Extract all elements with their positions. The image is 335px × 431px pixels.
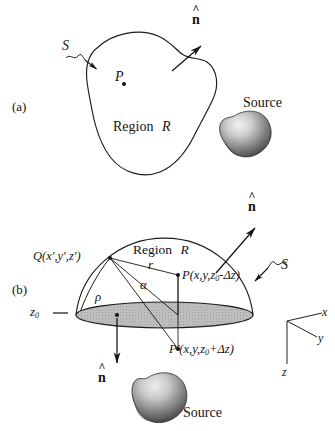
- panel-b-axes-triad: [287, 313, 322, 364]
- panel-a-region-label: Region R: [113, 120, 171, 134]
- panel-b-normal-label-up: ^ n: [248, 194, 256, 213]
- panel-b-plane-z0-label: z0: [30, 305, 39, 320]
- panel-b-image-point-head: P'(x,y,z: [169, 342, 205, 356]
- panel-a-surface-leader: [66, 55, 97, 69]
- axis-label-y: y: [318, 332, 323, 344]
- panel-b-image-point-tail: +Δz): [209, 342, 234, 356]
- panel-b-source-blob: [132, 373, 187, 423]
- panel-a-surface-label: S: [62, 39, 69, 53]
- panel-a-source-blob: [220, 111, 272, 157]
- panel-b-source-label: Source: [183, 406, 222, 420]
- panel-b-disk-center-dot: [115, 313, 119, 317]
- panel-b-field-point-label: P(x,y,z0-Δz): [182, 269, 240, 283]
- panel-b-distance-r-label: r: [148, 258, 153, 271]
- panel-b-image-point-label: P'(x,y,z0+Δz): [169, 343, 234, 357]
- panel-b-region-symbol: R: [180, 242, 188, 257]
- panel-b-field-point-head: P(x,y,z: [182, 268, 215, 282]
- panel-a-normal-label: ^ n: [192, 7, 200, 26]
- panel-b-base-disk: [76, 302, 253, 328]
- panel-b-surface-label: S: [281, 258, 288, 272]
- axis-label-x: x: [322, 306, 327, 318]
- panel-b-plane-z-subscript: 0: [35, 311, 39, 320]
- panel-a-surface-curve: [87, 32, 217, 175]
- panel-a-source-label: Source: [243, 96, 282, 110]
- panel-b-field-point-tail: -Δz): [219, 268, 240, 282]
- panel-a-region-word: Region: [113, 119, 153, 134]
- figure-root: (a) S P Region R ^ n Source (b) Q(x',y',…: [0, 0, 335, 431]
- panel-a-point-p-label: P: [115, 70, 124, 84]
- panel-b-region-label: Region R: [133, 243, 189, 257]
- panel-b-region-word: Region: [133, 242, 172, 257]
- panel-b-normal-arrow-up: [216, 228, 255, 273]
- panel-a-normal-letter: n: [192, 14, 200, 26]
- panel-b-distance-rho-label: ρ: [95, 290, 101, 303]
- panel-b-tag: (b): [12, 283, 27, 296]
- panel-b-normal-up-letter: n: [248, 201, 256, 213]
- panel-b-normal-down-letter: n: [98, 372, 106, 384]
- panel-b-angle-alpha-label: α: [140, 278, 147, 291]
- panel-b-source-point-label: Q(x',y',z'): [33, 250, 81, 263]
- axis-label-z: z: [282, 366, 287, 378]
- panel-a-tag: (a): [12, 100, 26, 113]
- panel-a-region-symbol: R: [162, 119, 171, 134]
- panel-b-normal-label-down: ^ n: [98, 365, 106, 384]
